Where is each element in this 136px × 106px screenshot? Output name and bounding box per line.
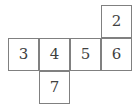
net-cell-label: 3 xyxy=(19,47,29,62)
net-cell-6: 6 xyxy=(101,38,132,71)
net-cell-2: 2 xyxy=(101,5,132,38)
net-cell-label: 2 xyxy=(112,14,122,29)
net-cell-3: 3 xyxy=(8,38,39,71)
cube-net-diagram: 2 3 4 5 6 7 xyxy=(0,0,136,106)
net-cell-label: 5 xyxy=(81,47,91,62)
net-cell-label: 7 xyxy=(50,80,60,95)
net-cell-label: 4 xyxy=(50,47,60,62)
net-cell-4: 4 xyxy=(39,38,70,71)
net-cell-5: 5 xyxy=(70,38,101,71)
net-cell-label: 6 xyxy=(112,47,122,62)
net-cell-7: 7 xyxy=(39,71,70,104)
